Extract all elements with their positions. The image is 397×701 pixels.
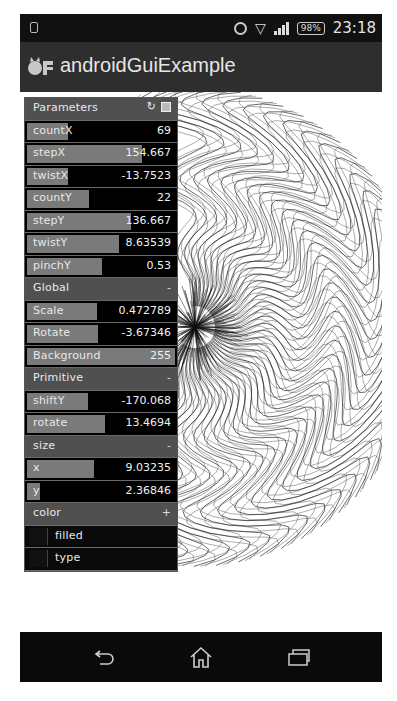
- toggle-label: filled: [55, 529, 83, 542]
- slider-y[interactable]: y2.36846: [25, 481, 177, 504]
- slider-value: -13.7523: [122, 169, 171, 182]
- group-label: color: [33, 506, 61, 519]
- slider-shifty[interactable]: shiftY-170.068: [25, 391, 177, 414]
- slider-twistx[interactable]: twistX-13.7523: [25, 166, 177, 189]
- slider-value: 9.03235: [126, 461, 172, 474]
- canvas[interactable]: Parameters ↻ countX69stepX154.667twistX-…: [20, 92, 382, 632]
- slider-value: 0.53: [147, 259, 172, 272]
- slider-value: 0.472789: [119, 304, 172, 317]
- slider-label: stepX: [33, 146, 65, 159]
- phone-icon: [30, 22, 38, 33]
- gui-panel[interactable]: Parameters ↻ countX69stepX154.667twistX-…: [24, 97, 178, 572]
- clock: 23:18: [333, 19, 376, 37]
- expand-icon[interactable]: +: [162, 506, 171, 519]
- slider-countx[interactable]: countX69: [25, 121, 177, 144]
- navigation-bar: [20, 632, 382, 682]
- openframeworks-logo-icon: [28, 57, 54, 75]
- action-bar: androidGuiExample: [20, 42, 382, 92]
- collapse-icon[interactable]: -: [167, 439, 171, 452]
- signal-icon: [274, 22, 289, 35]
- slider-value: 8.63539: [126, 236, 172, 249]
- alarm-icon: [234, 22, 247, 35]
- slider-pinchy[interactable]: pinchY0.53: [25, 256, 177, 279]
- checkbox[interactable]: [29, 550, 48, 567]
- battery-icon: 98%: [297, 22, 325, 35]
- back-button[interactable]: [90, 644, 120, 670]
- slider-x[interactable]: x9.03235: [25, 458, 177, 481]
- slider-scale[interactable]: Scale0.472789: [25, 301, 177, 324]
- slider-label: y: [33, 484, 40, 497]
- home-icon: [189, 646, 213, 668]
- slider-value: 22: [157, 191, 171, 204]
- slider-label: stepY: [33, 214, 65, 227]
- group-label: size: [33, 439, 55, 452]
- save-icon[interactable]: [161, 102, 171, 112]
- slider-value: 154.667: [126, 146, 172, 159]
- app-title: androidGuiExample: [60, 54, 236, 77]
- group-label: Global: [33, 281, 69, 294]
- slider-value: -3.67346: [122, 326, 171, 339]
- group-color[interactable]: color+: [25, 503, 177, 526]
- slider-value: 69: [157, 124, 171, 137]
- group-global[interactable]: Global-: [25, 278, 177, 301]
- recent-apps-button[interactable]: [284, 644, 314, 670]
- slider-value: -170.068: [122, 394, 171, 407]
- slider-stepy[interactable]: stepY136.667: [25, 211, 177, 234]
- slider-twisty[interactable]: twistY8.63539: [25, 233, 177, 256]
- slider-county[interactable]: countY22: [25, 188, 177, 211]
- refresh-icon[interactable]: ↻: [147, 102, 156, 112]
- slider-label: countY: [33, 191, 72, 204]
- slider-label: shiftY: [33, 394, 65, 407]
- slider-value: 136.667: [126, 214, 172, 227]
- recent-apps-icon: [287, 648, 311, 666]
- group-size[interactable]: size-: [25, 436, 177, 459]
- toggle-type[interactable]: type: [25, 548, 177, 571]
- panel-title: Parameters: [33, 101, 98, 114]
- slider-label: twistX: [33, 169, 68, 182]
- checkbox[interactable]: [29, 528, 48, 545]
- toggle-label: type: [55, 551, 80, 564]
- wifi-icon: ▽: [255, 20, 266, 36]
- slider-background[interactable]: Background255: [25, 346, 177, 369]
- toggle-filled[interactable]: filled: [25, 526, 177, 549]
- slider-rotate[interactable]: Rotate-3.67346: [25, 323, 177, 346]
- collapse-icon[interactable]: -: [167, 371, 171, 384]
- slider-label: rotate: [33, 416, 67, 429]
- slider-label: twistY: [33, 236, 67, 249]
- status-bar: ▽ 98% 23:18: [20, 14, 382, 42]
- slider-value: 13.4694: [126, 416, 172, 429]
- phone-screen: ▽ 98% 23:18 androidGuiExample Parameters…: [20, 14, 382, 682]
- slider-label: Background: [33, 349, 101, 362]
- slider-label: countX: [33, 124, 73, 137]
- slider-label: Scale: [33, 304, 64, 317]
- collapse-icon[interactable]: -: [167, 281, 171, 294]
- group-primitive[interactable]: Primitive-: [25, 368, 177, 391]
- group-label: Primitive: [33, 371, 83, 384]
- slider-value: 2.36846: [126, 484, 172, 497]
- slider-label: x: [33, 461, 40, 474]
- home-button[interactable]: [186, 644, 216, 670]
- slider-value: 255: [150, 349, 171, 362]
- panel-header[interactable]: Parameters ↻: [25, 98, 177, 121]
- back-icon: [94, 649, 116, 665]
- slider-stepx[interactable]: stepX154.667: [25, 143, 177, 166]
- slider-label: Rotate: [33, 326, 70, 339]
- slider-label: pinchY: [33, 259, 71, 272]
- slider-rotate[interactable]: rotate13.4694: [25, 413, 177, 436]
